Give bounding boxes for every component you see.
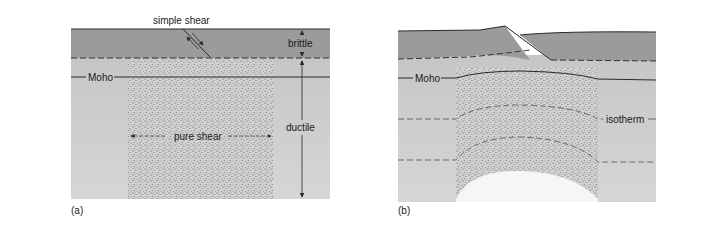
brittle-label: brittle bbox=[288, 38, 313, 49]
moho-label: Moho bbox=[415, 73, 440, 84]
panel-b-label: (b) bbox=[398, 205, 410, 216]
panel-a-label: (a) bbox=[71, 205, 83, 216]
pure-shear-zone bbox=[128, 58, 273, 199]
isotherm-label: isotherm bbox=[606, 114, 644, 125]
pure-shear-label: pure shear bbox=[174, 131, 222, 142]
ductile-label: ductile bbox=[286, 122, 315, 133]
panel-a: Moho simple shear brittle ductile pure s… bbox=[71, 15, 330, 216]
panel-b: Moho isotherm (b) bbox=[398, 26, 656, 216]
moho-label: Moho bbox=[88, 72, 113, 83]
figure-canvas: Moho simple shear brittle ductile pure s… bbox=[0, 0, 706, 228]
simple-shear-label: simple shear bbox=[153, 15, 210, 26]
